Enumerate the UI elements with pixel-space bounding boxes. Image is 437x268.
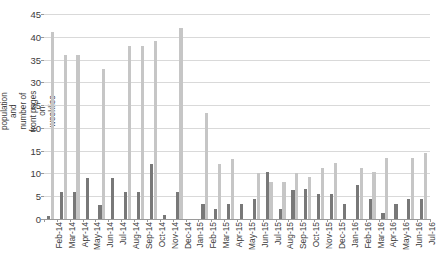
x-axis-tick-label: Nov-14 — [170, 222, 180, 249]
x-axis-tick-label: Mar-16 — [376, 222, 386, 249]
x-axis-tick-mark — [366, 219, 367, 222]
bar-surveyed-population — [205, 113, 208, 219]
x-axis-tick-label: Jun-15 — [260, 222, 270, 248]
bar-group — [121, 14, 134, 219]
x-axis-tick-mark — [173, 219, 174, 222]
bar-surveyed-population — [179, 28, 182, 219]
x-axis-tick-label: Feb-14 — [54, 222, 64, 249]
bar-front-pages — [176, 192, 179, 219]
y-axis-tick-labels: 051015202530354045 — [0, 0, 41, 268]
bar-group — [70, 14, 83, 219]
bar-front-pages — [124, 192, 127, 219]
x-axis-tick-label: Jun-14 — [105, 222, 115, 248]
x-axis-tick-mark — [263, 219, 264, 222]
bar-front-pages — [394, 204, 397, 219]
x-axis-tick-label: Jun-16 — [414, 222, 424, 248]
x-axis-tick-label: Apr-14 — [80, 222, 90, 247]
bar-surveyed-population — [269, 182, 272, 219]
x-axis-tick-label: Sep-14 — [144, 222, 154, 249]
x-axis-tick-label: Jan-15 — [195, 222, 205, 248]
y-axis-tick-label: 5 — [3, 191, 41, 202]
x-axis-tick-label: Nov-15 — [324, 222, 334, 249]
x-axis-tick-mark — [327, 219, 328, 222]
bar-front-pages — [73, 192, 76, 219]
bar-front-pages — [304, 189, 307, 219]
x-axis-tick-label: May-16 — [401, 222, 411, 250]
x-axis-tick-label: May-15 — [247, 222, 257, 250]
x-axis-tick-mark — [353, 219, 354, 222]
x-axis-tick-mark — [288, 219, 289, 222]
bar-surveyed-population — [295, 173, 298, 219]
x-axis-tick-label: Feb-16 — [363, 222, 373, 249]
bar-surveyed-population — [257, 173, 260, 219]
y-axis-tick-label: 30 — [3, 77, 41, 88]
bar-surveyed-population — [128, 46, 131, 219]
x-axis-tick-mark — [430, 219, 431, 222]
x-axis-tick-mark — [404, 219, 405, 222]
bar-front-pages — [343, 204, 346, 219]
bar-group — [147, 14, 160, 219]
bar-front-pages — [98, 205, 101, 219]
y-axis-tick-label: 20 — [3, 122, 41, 133]
bar-surveyed-population — [64, 55, 67, 219]
bar-surveyed-population — [154, 41, 157, 219]
bar-surveyed-population — [141, 46, 144, 219]
bar-group — [57, 14, 70, 219]
bar-group — [314, 14, 327, 219]
bar-surveyed-population — [334, 163, 337, 219]
bar-surveyed-population — [102, 69, 105, 219]
x-axis-tick-mark — [83, 219, 84, 222]
x-axis-tick-label: Aug-14 — [131, 222, 141, 249]
bar-surveyed-population — [76, 55, 79, 219]
bar-group — [366, 14, 379, 219]
bar-group — [404, 14, 417, 219]
bar-group — [44, 14, 57, 219]
bar-group — [263, 14, 276, 219]
bar-surveyed-population — [372, 172, 375, 219]
x-axis-tick-label: Jan-16 — [350, 222, 360, 248]
x-axis-tick-mark — [160, 219, 161, 222]
bar-front-pages — [240, 204, 243, 219]
x-axis-tick-label: Dec-14 — [183, 222, 193, 249]
bar-group — [353, 14, 366, 219]
x-axis-tick-label: Jul-16 — [427, 222, 437, 245]
bar-front-pages — [356, 185, 359, 219]
bar-group — [108, 14, 121, 219]
x-axis-tick-label: Sep-15 — [298, 222, 308, 249]
bar-surveyed-population — [218, 164, 221, 219]
x-axis-tick-mark — [44, 219, 45, 222]
x-axis-tick-label: Oct-14 — [157, 222, 167, 247]
bar-front-pages — [253, 199, 256, 219]
x-axis-tick-label: Mar-14 — [67, 222, 77, 249]
x-axis-tick-mark — [211, 219, 212, 222]
bar-front-pages — [111, 178, 114, 219]
y-axis-tick-label: 40 — [3, 31, 41, 42]
bar-surveyed-population — [51, 32, 54, 219]
bar-front-pages — [420, 199, 423, 220]
y-axis-tick-label: 15 — [3, 145, 41, 156]
bar-group — [276, 14, 289, 219]
x-axis-tick-mark — [250, 219, 251, 222]
y-axis-tick-label: 10 — [3, 168, 41, 179]
y-axis-tick-label: 0 — [3, 214, 41, 225]
x-axis-tick-mark — [198, 219, 199, 222]
x-axis-tick-mark — [57, 219, 58, 222]
x-axis-tick-mark — [95, 219, 96, 222]
x-axis-tick-label: Apr-16 — [388, 222, 398, 247]
x-axis-tick-label: Oct-15 — [311, 222, 321, 247]
x-axis-tick-labels: Feb-14Mar-14Apr-14May-14Jun-14Jul-14Aug-… — [44, 222, 430, 268]
bar-front-pages — [227, 204, 230, 219]
y-axis-tick-label: 25 — [3, 100, 41, 111]
bar-group — [379, 14, 392, 219]
bar-surveyed-population — [385, 158, 388, 219]
x-axis-tick-label: May-14 — [92, 222, 102, 250]
x-axis-tick-label: Apr-15 — [234, 222, 244, 247]
x-axis-tick-label: Jul-14 — [118, 222, 128, 245]
bar-group — [327, 14, 340, 219]
plot-area — [44, 14, 430, 219]
bar-group — [160, 14, 173, 219]
bar-front-pages — [214, 209, 217, 219]
bar-surveyed-population — [231, 159, 234, 219]
bar-group — [134, 14, 147, 219]
x-axis-tick-mark — [134, 219, 135, 222]
